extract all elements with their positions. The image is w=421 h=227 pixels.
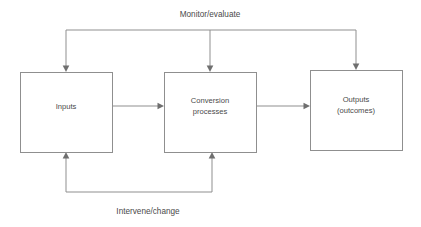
intervene-change-feedback-path (63, 152, 216, 192)
node-conversion-label-line2: processes (193, 107, 228, 116)
diagram-container: Inputs Conversion processes Outputs (out… (0, 0, 421, 227)
node-inputs-rect[interactable] (21, 73, 113, 153)
arrowhead-inputs-to-conversion (158, 103, 165, 110)
node-outputs-label-line2: (outcomes) (337, 106, 375, 115)
node-inputs[interactable]: Inputs (21, 73, 113, 153)
arrowhead-conversion-to-outputs (304, 103, 311, 110)
arrowhead-monitor-to-inputs (63, 66, 70, 73)
label-intervene-change: Intervene/change (116, 207, 180, 216)
node-inputs-label: Inputs (56, 102, 77, 111)
node-conversion-processes[interactable]: Conversion processes (165, 73, 257, 153)
arrowhead-monitor-to-outputs (353, 64, 360, 71)
diagram-canvas: Inputs Conversion processes Outputs (out… (0, 0, 421, 227)
arrowhead-monitor-to-conversion (207, 66, 214, 73)
node-outputs[interactable]: Outputs (outcomes) (311, 71, 403, 151)
node-outputs-label-line1: Outputs (343, 95, 370, 104)
label-monitor-evaluate: Monitor/evaluate (180, 10, 241, 19)
node-conversion-label-line1: Conversion (191, 96, 229, 105)
monitor-evaluate-feedback-path (63, 30, 360, 72)
